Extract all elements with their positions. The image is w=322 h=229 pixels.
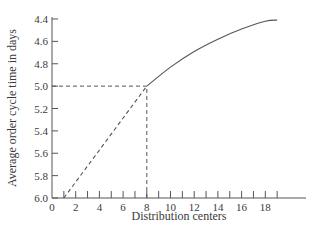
series-line xyxy=(64,86,147,198)
y-tick-label: 4.4 xyxy=(34,13,48,25)
x-tick-label: 16 xyxy=(236,201,248,213)
x-tick-label: 6 xyxy=(120,201,126,213)
y-tick-label: 6.0 xyxy=(34,192,48,204)
reference-lines xyxy=(52,86,147,198)
x-tick-label: 0 xyxy=(49,201,55,213)
data-series xyxy=(64,20,277,198)
series-line xyxy=(147,20,277,86)
y-tick-label: 4.8 xyxy=(34,58,48,70)
y-tick-label: 5.2 xyxy=(34,103,48,115)
y-tick-label: 4.6 xyxy=(34,35,48,47)
x-tick-label: 4 xyxy=(97,201,103,213)
x-axis-label: Distribution centers xyxy=(132,209,227,223)
axes xyxy=(52,17,306,198)
chart: 4.44.64.85.05.25.45.65.86.0 024681012141… xyxy=(0,0,322,229)
y-tick-label: 5.8 xyxy=(34,170,48,182)
y-tick-label: 5.4 xyxy=(34,125,48,137)
y-axis-ticks: 4.44.64.85.05.25.45.65.86.0 xyxy=(34,13,58,204)
x-tick-label: 2 xyxy=(73,201,79,213)
y-axis-label: Average order cycle time in days xyxy=(5,29,19,187)
x-tick-label: 18 xyxy=(260,201,272,213)
y-tick-label: 5.0 xyxy=(34,80,48,92)
y-tick-label: 5.6 xyxy=(34,147,48,159)
